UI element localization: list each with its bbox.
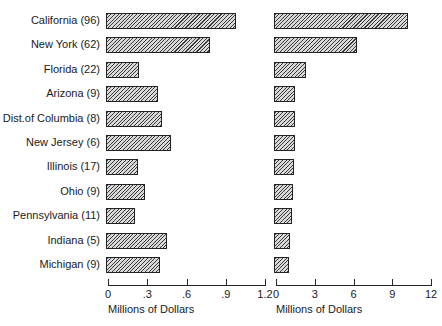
right-bar <box>274 184 293 200</box>
category-label: Indiana (5) <box>47 234 100 246</box>
right-bar <box>274 233 290 249</box>
category-label: Pennsylvania (11) <box>13 209 100 221</box>
left-bar <box>106 135 171 151</box>
right-tick <box>392 279 393 286</box>
left-tick-label: 1.2 <box>257 288 272 300</box>
left-tick <box>108 279 109 286</box>
left-bar <box>106 37 210 53</box>
left-tick-label: 0 <box>105 288 111 300</box>
left-tick <box>147 279 148 286</box>
right-tick-label: 12 <box>425 288 437 300</box>
right-tick-label: 0 <box>273 288 279 300</box>
left-bar <box>106 111 162 127</box>
right-bar <box>274 111 295 127</box>
left-bar <box>106 208 135 224</box>
left-bar <box>106 13 236 29</box>
right-bar <box>274 159 294 175</box>
category-label: New York (62) <box>31 38 100 50</box>
right-bar <box>274 37 357 53</box>
right-tick-label: 3 <box>312 288 318 300</box>
right-tick-label: 6 <box>350 288 356 300</box>
left-tick-label: .9 <box>221 288 230 300</box>
right-bar <box>274 13 408 29</box>
left-tick <box>265 279 266 286</box>
left-tick <box>226 279 227 286</box>
right-bar <box>274 135 295 151</box>
right-bar <box>274 86 295 102</box>
left-bar <box>106 86 158 102</box>
right-tick <box>354 279 355 286</box>
left-tick-label: .3 <box>143 288 152 300</box>
left-tick <box>187 279 188 286</box>
left-bar <box>106 233 167 249</box>
category-label: New Jersey (6) <box>26 136 100 148</box>
category-label: Dist.of Columbia (8) <box>3 112 100 124</box>
left-bar <box>106 184 145 200</box>
right-axis-title: Millions of Dollars <box>276 303 362 315</box>
left-bar <box>106 159 138 175</box>
left-tick-label: .6 <box>182 288 191 300</box>
category-label: Ohio (9) <box>60 185 100 197</box>
right-tick <box>276 279 277 286</box>
category-label: Florida (22) <box>44 63 100 75</box>
left-bar <box>106 62 139 78</box>
category-label: California (96) <box>31 14 100 26</box>
left-axis-title: Millions of Dollars <box>108 303 194 315</box>
category-labels: California (96)New York (62)Florida (22)… <box>0 0 100 326</box>
right-bar <box>274 62 306 78</box>
right-tick <box>315 279 316 286</box>
category-label: Michigan (9) <box>39 258 100 270</box>
left-bar <box>106 257 160 273</box>
category-label: Illinois (17) <box>47 160 100 172</box>
right-bar <box>274 208 292 224</box>
category-label: Arizona (9) <box>46 87 100 99</box>
right-tick-label: 9 <box>389 288 395 300</box>
right-tick <box>431 279 432 286</box>
right-bar <box>274 257 289 273</box>
